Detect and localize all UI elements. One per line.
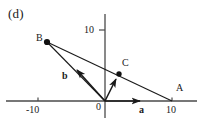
x-tick-label-minus-10: -10 — [26, 105, 39, 115]
vector-b — [77, 70, 105, 101]
point-label-B: B — [36, 33, 43, 43]
x-tick-label-10: 10 — [166, 105, 176, 115]
origin-label: 0 — [96, 102, 101, 112]
point-B-dot — [44, 39, 50, 45]
point-C-dot — [116, 71, 121, 76]
point-label-C: C — [122, 58, 129, 68]
vector-diagram-figure: (d) B C A b a 0 10 -10 10 — [0, 0, 201, 130]
panel-label: (d) — [8, 7, 24, 20]
y-tick-label-10: 10 — [84, 25, 94, 35]
vector-label-b: b — [62, 71, 68, 81]
vector-c — [105, 79, 116, 101]
point-label-A: A — [176, 83, 183, 93]
vector-label-a: a — [139, 105, 144, 115]
